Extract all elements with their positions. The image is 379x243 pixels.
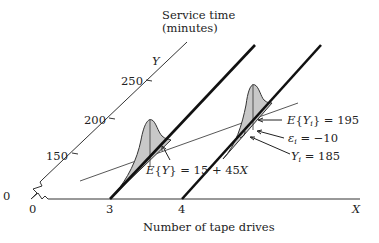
regression-figure: 150 200 250 Y Service time (minutes) 0 0… (0, 0, 379, 243)
x-axis-title: Number of tape drives (143, 220, 275, 234)
y-axis-symbol: Y (152, 54, 161, 68)
y-tick-label-250: 250 (121, 74, 143, 88)
y-tick-label-150: 150 (46, 149, 68, 163)
y-tick-250 (146, 80, 152, 81)
x-axis (31, 193, 360, 199)
y-axis-title-line1: Service time (162, 8, 235, 22)
y-axis-title-line2: (minutes) (162, 21, 218, 35)
origin-label-y: 0 (3, 189, 10, 203)
origin-label-x: 0 (29, 202, 36, 216)
x-tick-label-4: 4 (178, 202, 185, 216)
regression-label: E{Y} = 15 + 45X (145, 163, 249, 177)
annotation-error: εi = −10 (288, 131, 338, 146)
y-tick-label-200: 200 (84, 113, 106, 127)
x-axis-symbol: X (351, 202, 361, 216)
y-tick-200 (109, 118, 115, 119)
distribution-curve-x4 (223, 85, 272, 159)
x-tick-label-3: 3 (106, 202, 113, 216)
annotation-observed: Yi = 185 (291, 149, 340, 164)
y-tick-150 (72, 153, 78, 154)
annotation-expected: E{Yi} = 195 (286, 113, 359, 128)
distribution-curve-x3 (114, 120, 171, 195)
